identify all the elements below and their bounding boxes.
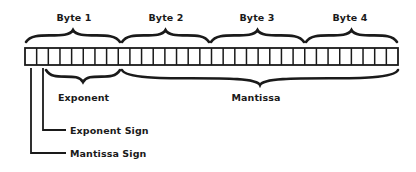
byte-1-label: Byte 1 [57,12,92,23]
byte-4-brace [306,30,397,42]
mantissa-sign-leader [31,68,66,153]
mantissa-sign-label: Mantissa Sign [70,148,146,159]
floating-point-format-diagram: Byte 1 Byte 2 Byte 3 Byte 4 Exponent Man… [0,0,416,172]
mantissa-brace [122,70,398,85]
diagram-graphics [0,0,416,172]
exponent-brace [46,70,120,82]
byte-3-label: Byte 3 [240,12,275,23]
byte-1-brace [26,30,120,42]
byte-2-label: Byte 2 [149,12,184,23]
byte-2-brace [122,30,209,42]
mantissa-label: Mantissa [232,92,281,103]
exponent-label: Exponent [58,92,109,103]
byte-4-label: Byte 4 [333,12,368,23]
exponent-sign-label: Exponent Sign [70,125,149,136]
byte-3-brace [211,30,304,42]
